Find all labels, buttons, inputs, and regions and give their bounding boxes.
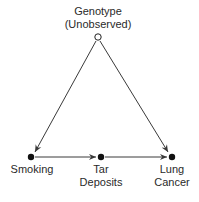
label-genotype-line1: Genotype <box>58 5 138 18</box>
node-smoking <box>28 154 34 160</box>
label-tar-line2: Deposits <box>71 176 131 189</box>
label-lung-cancer: Lung Cancer <box>144 163 199 189</box>
label-genotype: Genotype (Unobserved) <box>58 5 138 31</box>
label-cancer-line2: Cancer <box>144 176 199 189</box>
label-cancer-line1: Lung <box>144 163 199 176</box>
label-tar-line1: Tar <box>71 163 131 176</box>
label-smoking-line1: Smoking <box>4 163 60 176</box>
node-lung-cancer <box>169 154 175 160</box>
edge-genotype-smoking <box>35 41 96 152</box>
label-smoking: Smoking <box>4 163 60 176</box>
label-genotype-line2: (Unobserved) <box>58 18 138 31</box>
causal-diagram: Genotype (Unobserved) Smoking Tar Deposi… <box>0 0 199 202</box>
label-tar-deposits: Tar Deposits <box>71 163 131 189</box>
edge-genotype-cancer <box>100 41 168 152</box>
node-tar-deposits <box>98 154 104 160</box>
node-genotype <box>95 34 101 40</box>
